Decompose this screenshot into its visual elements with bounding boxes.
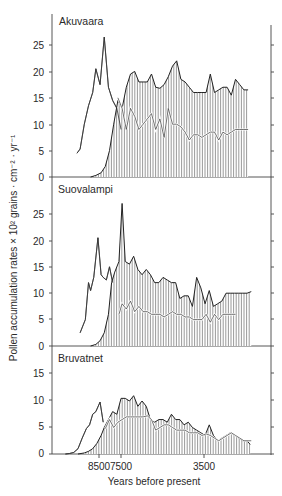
site-label-akuvaara: Akuvaara	[59, 15, 104, 27]
y-axis-title: Pollen accumulation rates × 10² grains ·…	[8, 134, 19, 361]
y-tick-label: 0	[38, 172, 44, 183]
y-tick-label: 10	[33, 288, 45, 299]
y-tick-label: 20	[33, 67, 45, 78]
y-tick-label: 10	[33, 120, 45, 131]
y-tick-label: 15	[33, 93, 45, 104]
y-ticks-suovalampi: 25 20 15 10 5 0	[33, 209, 45, 352]
panel-suovalampi	[80, 186, 251, 346]
y-ticks-bruvatnet: 15 10 5 0	[33, 368, 45, 459]
site-label-bruvatnet: Bruvatnet	[58, 352, 103, 364]
x-axis-title: Years before present	[108, 476, 201, 487]
y-tick-label: 5	[38, 421, 44, 432]
y-tick-label: 0	[38, 341, 44, 352]
y-tick-label: 20	[33, 236, 45, 247]
y-tick-label: 5	[38, 146, 44, 157]
y-tick-label: 10	[33, 395, 45, 406]
hatch-lines	[91, 17, 247, 177]
y-tick-label: 0	[38, 448, 44, 459]
panel-akuvaara	[77, 17, 248, 177]
x-tick-label-3500: 3500	[193, 461, 216, 472]
y-tick-label: 25	[33, 40, 45, 51]
pollen-chart: Akuvaara Suovalampi Bruvatnet 25 20 15 1…	[0, 0, 282, 496]
y-tick-label: 15	[33, 368, 45, 379]
x-tick-label-7500: 7500	[110, 461, 133, 472]
y-tick-label: 25	[33, 209, 45, 220]
hatched-area-fill	[91, 203, 252, 346]
y-tick-label: 5	[38, 314, 44, 325]
x-tick-label-8500: 8500	[88, 461, 111, 472]
y-ticks-akuvaara: 25 20 15 10 5 0	[33, 40, 45, 183]
x-ticks: 8500 7500 3500	[88, 461, 216, 472]
y-tick-label: 15	[33, 262, 45, 273]
site-label-suovalampi: Suovalampi	[58, 183, 113, 195]
